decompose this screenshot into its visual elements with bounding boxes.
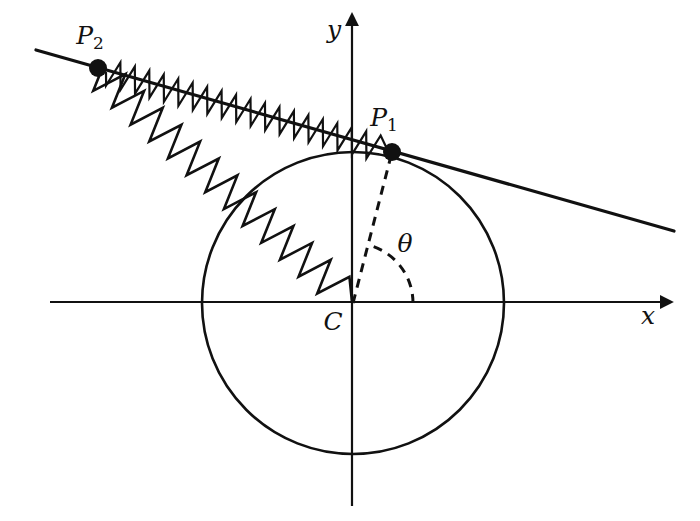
point-label-p1: P1: [369, 103, 398, 135]
point-label-c: C: [323, 307, 342, 336]
angle-label-theta: θ: [397, 229, 412, 258]
point-label-p2: P2: [75, 21, 104, 53]
axis-label-x: x: [641, 301, 655, 330]
diagram-svg: x y θ C P1 P2: [0, 0, 700, 521]
point-dot-p1: [383, 143, 401, 161]
physics-diagram-canvas: x y θ C P1 P2: [0, 0, 700, 521]
radius-line-dashed: [353, 152, 392, 303]
point-dot-p2: [89, 59, 107, 77]
axis-label-y: y: [326, 15, 342, 44]
tangent-line: [36, 50, 674, 231]
